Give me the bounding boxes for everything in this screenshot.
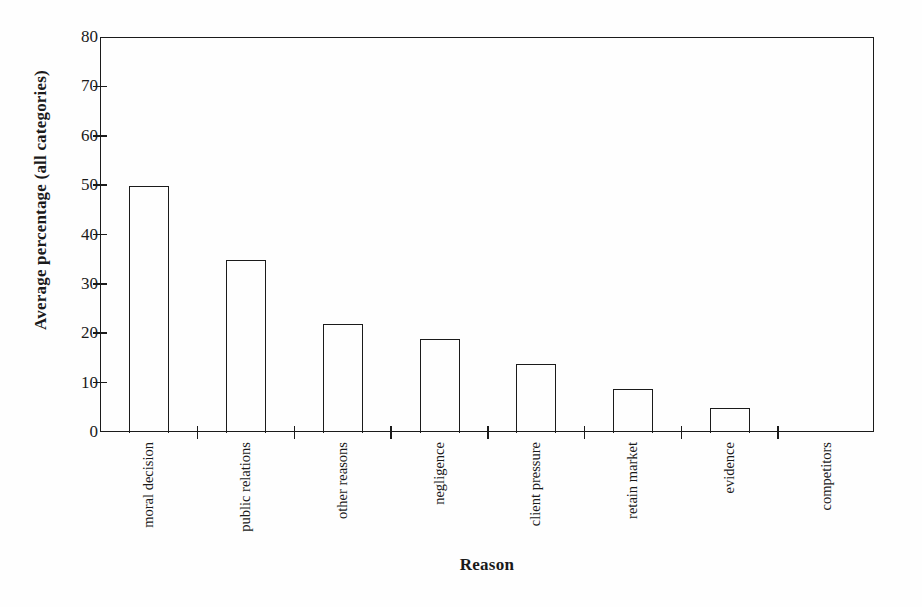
- bar: [710, 408, 750, 433]
- y-axis-tick-label: 60: [38, 125, 98, 147]
- chart-page: Average percentage (all categories) 0102…: [0, 0, 922, 607]
- x-axis-tick-mark: [681, 426, 683, 439]
- bar: [516, 364, 556, 433]
- x-axis-tick-mark: [777, 426, 779, 439]
- y-axis-tick-label: 80: [38, 26, 98, 48]
- x-axis-title: Reason: [100, 555, 874, 575]
- y-axis-tick-label: 20: [38, 322, 98, 344]
- bar: [323, 324, 363, 433]
- bar: [420, 339, 460, 433]
- y-axis-tick-label: 70: [38, 75, 98, 97]
- plot-frame: [100, 37, 874, 432]
- y-axis-tick-label: 0: [38, 421, 98, 443]
- bar: [129, 186, 169, 433]
- x-axis-tick-mark: [487, 426, 489, 439]
- x-axis-tick-mark: [584, 426, 586, 439]
- bar: [226, 260, 266, 433]
- bar: [613, 389, 653, 433]
- y-axis-tick-label: 10: [38, 372, 98, 394]
- y-axis-tick-label: 40: [38, 224, 98, 246]
- y-axis-tick-label: 50: [38, 174, 98, 196]
- y-axis-tick-label: 30: [38, 273, 98, 295]
- x-axis-tick-mark: [294, 426, 296, 439]
- x-axis-tick-mark: [390, 426, 392, 439]
- x-axis-tick-mark: [197, 426, 199, 439]
